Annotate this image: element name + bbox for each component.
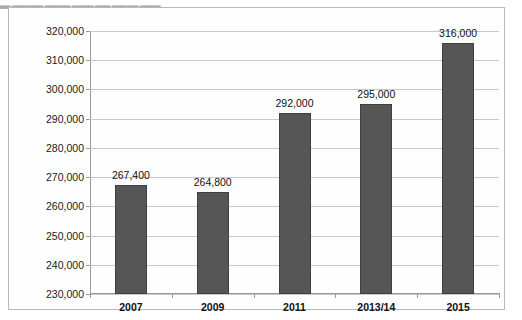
gridline bbox=[90, 89, 499, 90]
bar bbox=[279, 113, 311, 294]
bar-value-label: 295,000 bbox=[357, 89, 395, 100]
x-axis-tick-label: 2013/14 bbox=[357, 302, 395, 313]
bar-value-label: 292,000 bbox=[276, 98, 314, 109]
y-axis-tick bbox=[86, 177, 90, 178]
x-axis-tick bbox=[90, 293, 91, 298]
y-axis-tick-label: 260,000 bbox=[46, 201, 84, 212]
y-axis-tick-label: 290,000 bbox=[46, 113, 84, 124]
y-axis-tick-label: 300,000 bbox=[46, 84, 84, 95]
x-axis-tick-label: 2007 bbox=[119, 302, 142, 313]
y-axis-tick-label: 310,000 bbox=[46, 55, 84, 66]
x-axis-tick bbox=[335, 293, 336, 298]
x-axis-tick bbox=[499, 293, 500, 298]
y-axis-tick-label: 280,000 bbox=[46, 143, 84, 154]
y-axis-tick-label: 320,000 bbox=[46, 26, 84, 37]
y-axis-tick bbox=[86, 31, 90, 32]
bar-value-label: 316,000 bbox=[439, 28, 477, 39]
y-axis-line bbox=[90, 31, 91, 294]
x-axis-tick-label: 2011 bbox=[283, 302, 306, 313]
plot-area: 320,000310,000300,000290,000280,000270,0… bbox=[90, 31, 499, 294]
x-axis-tick bbox=[172, 293, 173, 298]
x-axis-tick-label: 2009 bbox=[201, 302, 224, 313]
x-axis-tick-label: 2015 bbox=[446, 302, 469, 313]
y-axis-tick bbox=[86, 148, 90, 149]
y-axis-tick-label: 240,000 bbox=[46, 260, 84, 271]
x-axis-tick bbox=[417, 293, 418, 298]
gridline bbox=[90, 31, 499, 32]
x-axis-tick bbox=[254, 293, 255, 298]
y-axis-tick-label: 230,000 bbox=[46, 289, 84, 300]
bar-value-label: 264,800 bbox=[194, 177, 232, 188]
y-axis-tick-label: 270,000 bbox=[46, 172, 84, 183]
gridline bbox=[90, 60, 499, 61]
chart-frame: 320,000310,000300,000290,000280,000270,0… bbox=[8, 7, 505, 310]
bar bbox=[442, 43, 474, 294]
gridline bbox=[90, 294, 499, 295]
bar bbox=[115, 185, 147, 294]
y-axis-tick bbox=[86, 265, 90, 266]
y-axis-tick bbox=[86, 206, 90, 207]
y-axis-tick bbox=[86, 89, 90, 90]
y-axis-tick-label: 250,000 bbox=[46, 230, 84, 241]
y-axis-tick bbox=[86, 60, 90, 61]
bar bbox=[360, 104, 392, 294]
y-axis-tick bbox=[86, 236, 90, 237]
chart-page: ▃▃ ▃▃▃▃▃▃ ▃▃▃▃▃ ▃▃▃▃ ▃▃▃ ▃▃▃▃▃ ▃▃▃▃ 320,… bbox=[0, 0, 522, 320]
bar bbox=[197, 192, 229, 294]
y-axis-tick bbox=[86, 119, 90, 120]
bar-value-label: 267,400 bbox=[112, 170, 150, 181]
